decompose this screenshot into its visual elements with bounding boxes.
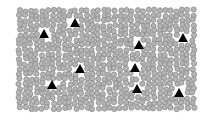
distractor-circle [80,32,85,37]
distractor-circle [163,41,168,46]
distractor-circle [61,32,66,37]
distractor-circle [68,51,73,56]
distractor-circle [96,76,101,81]
distractor-circle [95,32,100,37]
distractor-circle [95,66,100,71]
distractor-circle [56,17,61,22]
distractor-circle [94,86,99,91]
distractor-circle [90,81,95,86]
distractor-circle [129,95,134,100]
distractor-circle [61,9,66,14]
distractor-circle [96,46,101,51]
distractor-circle [61,66,66,71]
distractor-circle [23,100,28,105]
distractor-circle [151,47,156,52]
distractor-circle [34,32,39,37]
distractor-circle [168,71,173,76]
distractor-circle [173,41,178,46]
distractor-circle [90,22,95,27]
distractor-circle [152,41,157,46]
distractor-circle [72,62,77,67]
distractor-circle [190,67,195,72]
distractor-circle [190,38,195,43]
distractor-circle [118,18,123,23]
distractor-circle [145,46,150,51]
distractor-circle [45,47,50,52]
distractor-circle [44,13,49,18]
distractor-circle [89,107,94,112]
distractor-circle [51,106,56,111]
distractor-circle [27,86,32,91]
distractor-circle [146,71,151,76]
distractor-circle [90,96,95,101]
distractor-circle [112,92,117,97]
distractor-circle [40,42,45,47]
distractor-circle [27,96,32,101]
distractor-circle [51,7,56,12]
distractor-circle [179,47,184,52]
distractor-circle [96,61,101,66]
distractor-circle [33,27,38,32]
distractor-circle [17,67,22,72]
distractor-circle [124,80,129,85]
distractor-circle [107,80,112,85]
distractor-circle [124,48,129,53]
distractor-circle [119,90,124,95]
distractor-circle [157,100,162,105]
distractor-circle [66,100,71,105]
distractor-circle [184,7,189,12]
distractor-circle [90,91,95,96]
distractor-circle [122,61,127,66]
distractor-circle [117,67,122,72]
distractor-circle [67,95,72,100]
distractor-circle [179,105,184,110]
distractor-circle [23,81,28,86]
stimulus-canvas [0,0,208,119]
distractor-circle [167,27,172,32]
distractor-circle [123,31,128,36]
distractor-circle [168,105,173,110]
distractor-circle [146,38,151,43]
distractor-circle [16,90,21,95]
distractor-circle [72,101,77,106]
distractor-circle [79,105,84,110]
distractor-circle [130,56,135,61]
distractor-circle [179,26,184,31]
distractor-circle [100,56,105,61]
distractor-circle [140,81,145,86]
target-triangle [130,63,140,72]
distractor-circle [152,101,157,106]
distractor-circle [184,70,189,75]
distractor-circle [156,13,161,18]
target-triangle [47,80,57,89]
distractor-circle [118,85,123,90]
distractor-circle [17,105,22,110]
distractor-circle [33,9,38,14]
distractor-circle [35,90,40,95]
distractor-circle [51,90,56,95]
distractor-circle [79,42,84,47]
search-display [0,0,208,119]
distractor-circle [24,56,29,61]
target-triangle [39,29,49,38]
distractor-circle [61,27,66,32]
distractor-circle [89,62,94,67]
distractor-circle [46,75,51,80]
distractor-circle [16,81,21,86]
distractor-circle [162,27,167,32]
distractor-circle [191,33,196,38]
distractor-circle [34,17,39,22]
distractor-circle [107,56,112,61]
distractor-circle [78,82,83,87]
distractor-circle [190,17,195,22]
distractor-circle [179,80,184,85]
distractor-circle [129,105,134,110]
distractor-circle [168,42,173,47]
distractor-circle [162,18,167,23]
distractor-circle [112,106,117,111]
distractor-circle [101,71,106,76]
distractor-circle [179,12,184,17]
distractor-circle [57,100,62,105]
distractor-circle [34,42,39,47]
distractor-circle [191,77,196,82]
